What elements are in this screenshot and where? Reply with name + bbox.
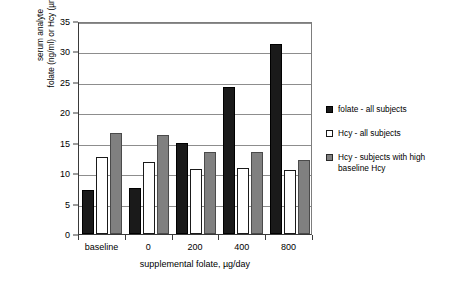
x-tick-mark <box>172 235 173 240</box>
x-tick-mark <box>312 235 313 240</box>
plot-area <box>78 22 312 235</box>
y-tick-label: 30 <box>60 47 70 57</box>
y-tick-label: 0 <box>65 230 70 240</box>
x-tick-mark <box>218 235 219 240</box>
bar-group <box>79 23 126 234</box>
legend-swatch-icon <box>326 130 333 137</box>
bar <box>143 162 155 234</box>
bar <box>284 170 296 234</box>
bar <box>298 160 310 234</box>
bar-chart-figure: serum analyte folate (ng/ml) or Hcy (µmo… <box>0 0 462 300</box>
x-tick-label: 200 <box>187 242 202 252</box>
bar-group <box>266 23 313 234</box>
legend-label: Hcy - all subjects <box>338 128 401 139</box>
y-tick-label: 25 <box>60 78 70 88</box>
bar-group <box>219 23 266 234</box>
bar-group <box>126 23 173 234</box>
bar <box>129 188 141 234</box>
bar <box>176 143 188 234</box>
bar <box>223 87 235 234</box>
x-tick-mark <box>125 235 126 240</box>
y-tick-label: 15 <box>60 139 70 149</box>
y-tick-label: 10 <box>60 169 70 179</box>
x-tick-label: baseline <box>85 242 119 252</box>
bar <box>270 44 282 234</box>
legend-item: Hcy - subjects with high baseline Hcy <box>326 152 458 174</box>
x-tick-mark <box>265 235 266 240</box>
legend-swatch-icon <box>326 106 333 113</box>
bar <box>237 168 249 234</box>
bar <box>251 152 263 234</box>
x-tick-label: 0 <box>146 242 151 252</box>
bar <box>96 157 108 234</box>
legend-label: Hcy - subjects with high baseline Hcy <box>338 152 458 174</box>
bar <box>110 133 122 234</box>
y-axis-ticks: 05101520253035 <box>0 22 78 235</box>
bar <box>204 152 216 234</box>
x-tick-label: 400 <box>234 242 249 252</box>
x-axis-ticks: baseline0200400800 <box>78 235 312 261</box>
bar <box>82 190 94 234</box>
x-tick-label: 800 <box>281 242 296 252</box>
chart-legend: folate - all subjectsHcy - all subjectsH… <box>326 104 458 187</box>
legend-swatch-icon <box>326 154 333 161</box>
legend-label: folate - all subjects <box>338 104 407 115</box>
bar <box>190 169 202 234</box>
x-tick-mark <box>78 235 79 240</box>
legend-item: Hcy - all subjects <box>326 128 458 139</box>
y-tick-label: 5 <box>65 200 70 210</box>
bar <box>157 135 169 234</box>
bar-group <box>173 23 220 234</box>
legend-item: folate - all subjects <box>326 104 458 115</box>
x-axis-title: supplemental folate, µg/day <box>78 259 312 269</box>
bar-groups <box>79 23 311 234</box>
y-tick-label: 35 <box>60 17 70 27</box>
y-tick-label: 20 <box>60 108 70 118</box>
